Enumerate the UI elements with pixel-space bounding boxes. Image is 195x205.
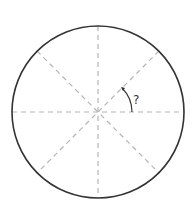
angle-arc (122, 88, 132, 112)
circle-diagram: ? (0, 0, 195, 205)
dashed-diameters (12, 26, 184, 198)
angle-label: ? (133, 93, 139, 107)
